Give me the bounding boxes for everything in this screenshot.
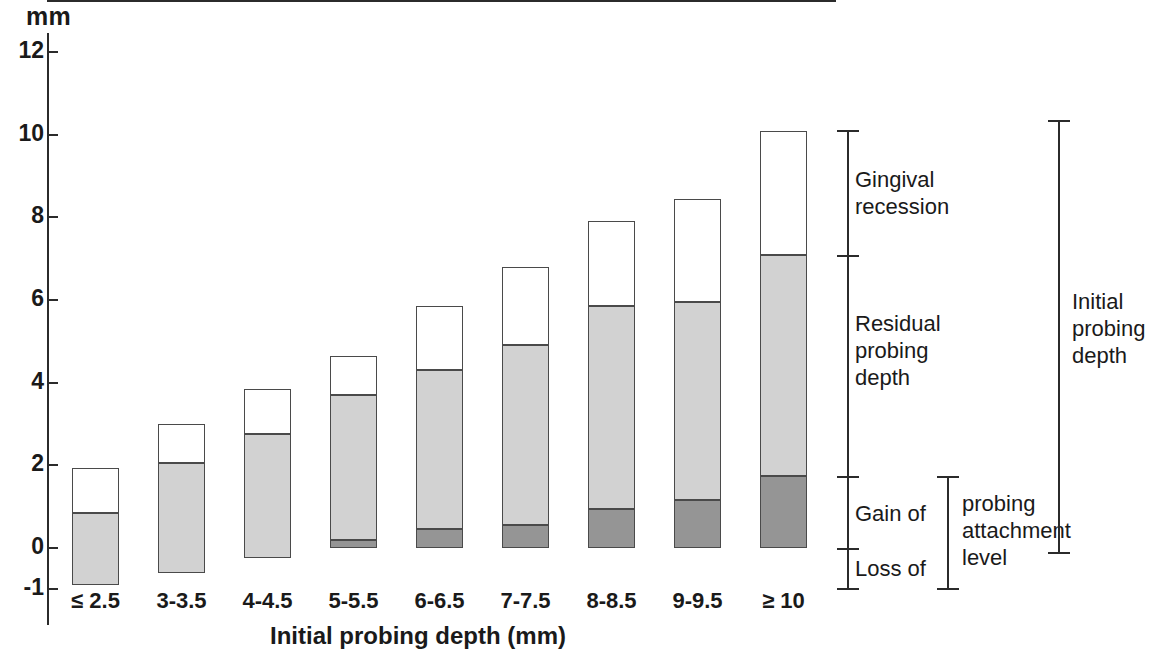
bar-segment-gingival-recession	[416, 306, 463, 370]
annotation-residual-probing-depth: Residual probing depth	[855, 310, 941, 391]
x-axis-tick-label: 8-8.5	[566, 588, 657, 614]
bar-stack	[244, 0, 291, 660]
bar-segment-probing-attachment-level	[502, 525, 549, 548]
left-bracket-tick-gain-top	[837, 476, 859, 478]
bar-segment-gingival-recession	[330, 356, 377, 395]
left-bracket-cap-bottom	[837, 588, 859, 590]
y-axis-tick-label: -1	[0, 574, 44, 601]
y-axis-tick	[47, 134, 58, 136]
bar-stack	[502, 0, 549, 660]
bar-segment-residual-probing-depth	[416, 370, 463, 529]
bar-segment-gingival-recession	[244, 389, 291, 434]
y-axis-tick-label: 10	[0, 120, 44, 147]
y-axis-unit-label: mm	[26, 2, 71, 31]
bar-stack	[760, 0, 807, 660]
bar-segment-probing-attachment-level	[330, 540, 377, 548]
bar-segment-residual-probing-depth	[502, 345, 549, 525]
bar-stack	[588, 0, 635, 660]
bar-segment-probing-attachment-level	[760, 476, 807, 548]
bar-segment-residual-probing-depth	[244, 434, 291, 558]
initial-depth-bracket-cap-top	[1048, 120, 1070, 122]
y-axis-tick	[47, 51, 58, 53]
chart-figure: mm 121086420-1 ≤ 2.53-3.54-4.55-5.56-6.5…	[0, 0, 1175, 660]
annotation-gain-of: Gain of	[855, 500, 926, 527]
left-bracket-stem	[847, 130, 849, 589]
x-axis-tick-label: 4-4.5	[222, 588, 313, 614]
y-axis-tick-label: 4	[0, 368, 44, 395]
y-axis-tick	[47, 464, 58, 466]
y-axis-tick	[47, 547, 58, 549]
y-axis-tick	[47, 299, 58, 301]
bar-stack	[416, 0, 463, 660]
bar-segment-gingival-recession	[760, 131, 807, 255]
y-axis-tick-label: 6	[0, 285, 44, 312]
bar-segment-probing-attachment-level	[416, 529, 463, 548]
left-bracket-cap-top	[837, 130, 859, 132]
x-axis-tick-label: 7-7.5	[480, 588, 571, 614]
pal-bracket-cap-bottom	[937, 588, 959, 590]
bar-segment-residual-probing-depth	[330, 395, 377, 540]
initial-depth-bracket-stem	[1058, 120, 1060, 554]
y-axis-tick-label: 0	[0, 533, 44, 560]
x-axis-tick-label: 3-3.5	[136, 588, 227, 614]
bar-segment-gingival-recession	[72, 468, 119, 513]
bar-stack	[158, 0, 205, 660]
y-axis-tick	[47, 382, 58, 384]
bar-segment-probing-attachment-level	[674, 500, 721, 548]
y-axis-tick-label: 8	[0, 202, 44, 229]
annotation-probing-attachment-level: probing attachment level	[962, 490, 1071, 571]
y-axis-tick-label: 12	[0, 37, 44, 64]
x-axis-title: Initial probing depth (mm)	[0, 622, 836, 650]
x-axis-tick-label: ≥ 10	[738, 588, 829, 614]
pal-bracket-cap-top	[937, 476, 959, 478]
bar-segment-gingival-recession	[502, 267, 549, 346]
y-axis-tick	[47, 216, 58, 218]
y-axis-line	[47, 33, 49, 625]
bar-segment-gingival-recession	[674, 199, 721, 302]
left-bracket-tick-zero	[837, 548, 859, 550]
pal-bracket-stem	[947, 476, 949, 590]
bar-segment-residual-probing-depth	[158, 463, 205, 573]
bar-segment-residual-probing-depth	[674, 302, 721, 500]
annotation-loss-of: Loss of	[855, 555, 926, 582]
bar-stack	[72, 0, 119, 660]
annotation-gingival-recession: Gingival recession	[855, 166, 949, 220]
bar-segment-probing-attachment-level	[588, 509, 635, 548]
x-axis-tick-label: 5-5.5	[308, 588, 399, 614]
y-axis-tick-label: 2	[0, 450, 44, 477]
initial-depth-bracket-cap-bottom	[1048, 552, 1070, 554]
x-axis-tick-label: ≤ 2.5	[50, 588, 141, 614]
bar-stack	[674, 0, 721, 660]
annotation-initial-probing-depth: Initial probing depth	[1072, 288, 1145, 369]
x-axis-tick-label: 6-6.5	[394, 588, 485, 614]
x-axis-tick-label: 9-9.5	[652, 588, 743, 614]
bar-segment-gingival-recession	[588, 221, 635, 306]
bar-segment-residual-probing-depth	[72, 513, 119, 585]
bar-segment-residual-probing-depth	[588, 306, 635, 509]
bar-stack	[330, 0, 377, 660]
left-bracket-tick-residual-top	[837, 255, 859, 257]
bar-segment-residual-probing-depth	[760, 255, 807, 476]
bar-segment-gingival-recession	[158, 424, 205, 463]
